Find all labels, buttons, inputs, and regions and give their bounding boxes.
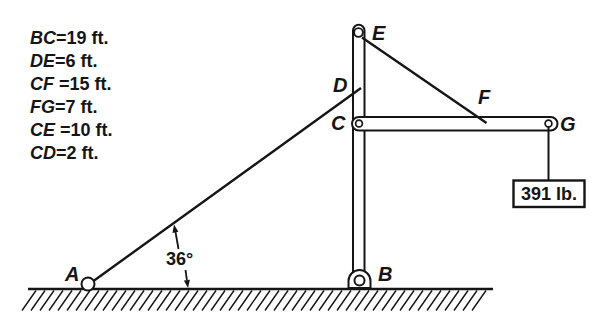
label-node-d: D xyxy=(333,74,347,96)
label-node-e: E xyxy=(372,22,386,44)
label-node-f: F xyxy=(478,86,491,108)
angle-arrow-down-line xyxy=(186,270,187,280)
ground-hatching xyxy=(22,291,486,311)
given-line-bc: BC=19 ft. xyxy=(30,28,109,48)
ground xyxy=(22,289,493,311)
given-line-ce: CE =10 ft. xyxy=(30,120,113,140)
given-line-fg: FG=7 ft. xyxy=(30,97,98,117)
given-line-cf: CF =15 ft. xyxy=(30,74,112,94)
given-line-cd: CD=2 ft. xyxy=(30,143,99,163)
angle-value: 36° xyxy=(166,249,193,269)
member-cg-bar xyxy=(352,117,558,131)
label-node-c: C xyxy=(331,112,346,134)
member-ad xyxy=(90,88,361,284)
load-value: 391 lb. xyxy=(521,184,577,204)
pin-c-icon xyxy=(356,120,363,127)
member-be-column xyxy=(353,25,365,283)
figure-page: 391 lb. 36° A B C D E F G BC=19 ft. DE=6… xyxy=(0,0,608,335)
statics-frame-figure: 391 lb. 36° A B C D E F G BC=19 ft. DE=6… xyxy=(0,0,608,335)
label-node-a: A xyxy=(64,263,79,285)
member-ef xyxy=(362,38,487,124)
angle-arrow-up-line xyxy=(176,232,179,249)
given-line-de: DE=6 ft. xyxy=(30,51,98,71)
angle-arrow-up-icon xyxy=(173,225,179,233)
angle-arrow-down-icon xyxy=(184,280,190,288)
label-node-b: B xyxy=(378,263,392,285)
pin-a-icon xyxy=(82,278,95,291)
label-node-g: G xyxy=(560,113,576,135)
pin-g-icon xyxy=(545,120,552,127)
given-dimensions-list: BC=19 ft. DE=6 ft. CF =15 ft. FG=7 ft. C… xyxy=(30,28,113,163)
pin-e-icon xyxy=(354,28,363,37)
pin-b-icon xyxy=(355,276,365,286)
angle-annotation: 36° xyxy=(166,225,193,289)
